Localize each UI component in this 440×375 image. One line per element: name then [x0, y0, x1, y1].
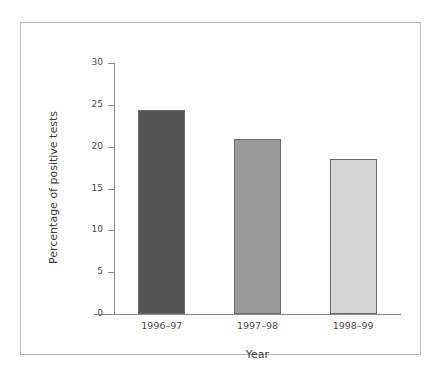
bar: [330, 159, 377, 314]
y-axis-tick-label-wrap: 15: [77, 184, 103, 193]
plot-area: [114, 63, 401, 314]
y-axis-tick-label-wrap: 5: [77, 267, 103, 276]
y-axis-tick-label: 15: [77, 184, 103, 193]
y-axis-tick-label: 5: [77, 267, 103, 276]
x-axis-title: Year: [114, 349, 401, 360]
y-axis-tick-label: 25: [77, 100, 103, 109]
bar-chart-figure: Percentage of positive tests 05101520253…: [0, 0, 440, 375]
figure-border: Percentage of positive tests 05101520253…: [20, 22, 421, 355]
bar: [234, 139, 281, 314]
y-axis-tick-label: 0: [77, 309, 103, 318]
y-axis-tick-label: 30: [77, 58, 103, 67]
y-axis-tick: [108, 314, 115, 315]
y-axis-tick-label: 20: [77, 142, 103, 151]
bar: [138, 110, 185, 314]
y-axis-tick-label-wrap: 10: [77, 225, 103, 234]
y-axis-title: Percentage of positive tests: [48, 88, 59, 288]
x-axis-tick-label: 1997–98: [213, 321, 303, 331]
y-axis-tick-label-wrap: 20: [77, 142, 103, 151]
y-axis-tick-label-wrap: 30: [77, 58, 103, 67]
y-axis-tick-label-wrap: 0: [77, 309, 103, 318]
x-axis-tick-label: 1998–99: [308, 321, 398, 331]
x-axis-tick-label: 1996–97: [117, 321, 207, 331]
x-axis-line: [94, 314, 401, 315]
y-axis-tick-label: 10: [77, 225, 103, 234]
y-axis-tick-label-wrap: 25: [77, 100, 103, 109]
